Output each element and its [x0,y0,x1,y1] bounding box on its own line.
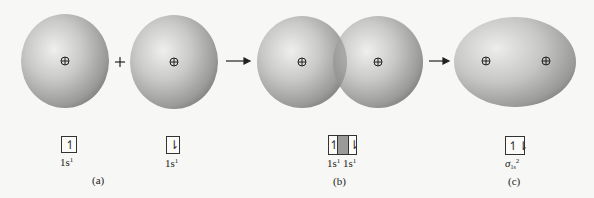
orbital-box-a1: ↿ [61,136,77,153]
nucleus-icon [170,58,178,66]
plus-icon [115,57,125,67]
spin-down-icon: ⇂ [169,139,179,151]
panel-label-c: (c) [508,176,520,187]
orbital-label-b: 1s1 1s1 [327,158,356,169]
spin-down-icon: ⇂ [349,139,359,151]
nucleus-icon [298,58,306,66]
nucleus-icon [482,57,490,65]
spin-up-icon: ↿ [65,139,75,151]
orbital-box-c: ↿⇂ [505,136,525,155]
orbital-label-a1: 1s1 [60,157,73,168]
panel-label-a: (a) [92,175,104,186]
spin-up-icon: ↿ [329,139,339,151]
paired-spin-icon: ↿⇂ [508,140,528,152]
orbital-label-a2: 1s1 [165,158,178,169]
panel-label-b: (b) [333,176,346,187]
sigma-1s-molecular-orbital [454,17,576,107]
orbital-box-b: ↿ ⇂ [328,135,357,155]
arrow-icon [226,58,250,64]
nucleus-icon [542,57,550,65]
orbital-label-c: σ1s2 [505,158,519,170]
diagram-stage: ↿ 1s1 ⇂ 1s1 (a) ↿ ⇂ 1s1 1s1 (b) ↿⇂ σ1s2 … [0,0,594,198]
arrow-icon [429,58,449,64]
nucleus-icon [61,57,69,65]
orbital-box-a2: ⇂ [166,136,180,154]
nucleus-icon [374,58,382,66]
